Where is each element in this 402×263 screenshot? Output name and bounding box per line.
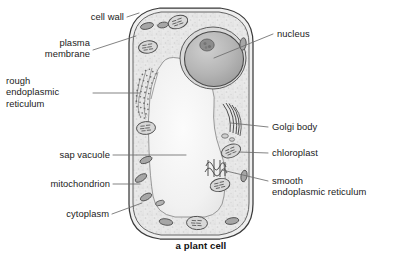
- label-sap-vacuole: sap vacuole: [12, 149, 110, 160]
- label-smooth-endoplasmic-reticulum: smooth endoplasmic reticulum: [272, 175, 400, 198]
- label-plasma-membrane: plasma membrane: [12, 37, 90, 60]
- label-rough-endoplasmic-reticulum: rough endoplasmic reticulum: [6, 75, 90, 109]
- nucleus-shape: [180, 27, 246, 89]
- label-mitochondrion: mitochondrion: [8, 178, 110, 189]
- label-cell-wall: cell wall: [12, 11, 124, 22]
- nucleolus-shape: [200, 39, 214, 51]
- figure-caption: a plant cell: [0, 240, 402, 251]
- label-chloroplast: chloroplast: [272, 147, 392, 158]
- label-nucleus: nucleus: [277, 28, 389, 39]
- leader-cell-wall: [127, 13, 139, 17]
- label-cytoplasm: cytoplasm: [12, 208, 109, 219]
- label-golgi-body: Golgi body: [272, 121, 392, 132]
- figure-canvas: cell wall plasma membrane rough endoplas…: [0, 0, 402, 263]
